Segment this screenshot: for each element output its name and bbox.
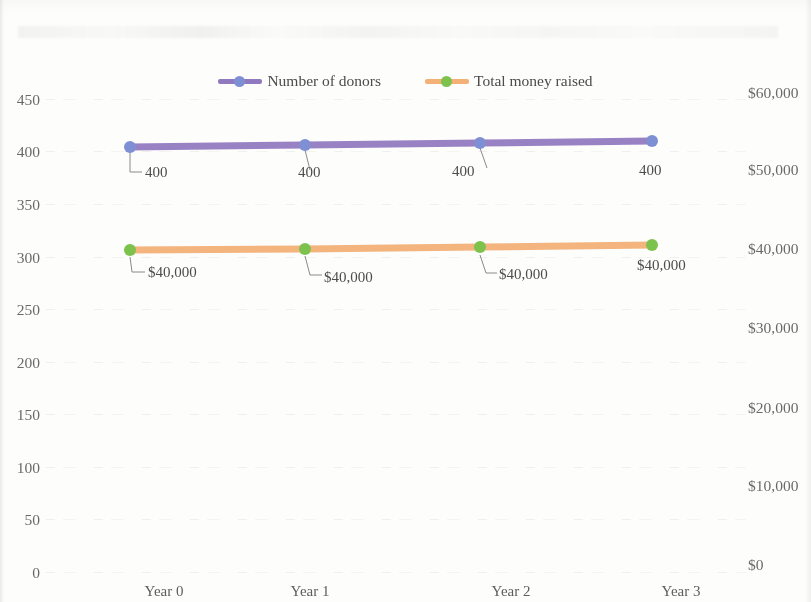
data-label-donors-year-1: 400 — [298, 165, 321, 180]
y-left-tick-400: 400 — [0, 144, 40, 160]
y-right-tick-10000: $10,000 — [748, 478, 798, 494]
y-right-tick-30000: $30,000 — [748, 320, 798, 336]
x-tick-year-3: Year 3 — [662, 584, 701, 599]
y-left-tick-300: 300 — [0, 250, 40, 266]
series-markers-total-money-raised — [124, 239, 658, 256]
x-tick-year-2: Year 2 — [492, 584, 531, 599]
y-right-tick-20000: $20,000 — [748, 400, 798, 416]
y-left-tick-0: 0 — [0, 565, 40, 581]
line-chart: 450 400 350 300 250 200 150 100 50 0 $60… — [0, 0, 811, 602]
data-label-donors-year-2: 400 — [452, 164, 475, 179]
data-label-money-year-0: $40,000 — [148, 265, 197, 280]
x-tick-year-1: Year 1 — [291, 584, 330, 599]
legend-swatch-money — [425, 75, 469, 87]
data-label-money-year-3: $40,000 — [637, 258, 686, 273]
y-left-tick-100: 100 — [0, 460, 40, 476]
legend-item-number-of-donors[interactable]: Number of donors — [218, 72, 381, 90]
y-right-tick-40000: $40,000 — [748, 241, 798, 257]
series-line-total-money-raised — [130, 245, 652, 250]
legend: Number of donors Total money raised — [0, 72, 811, 90]
y-left-tick-250: 250 — [0, 302, 40, 318]
data-label-donors-year-0: 400 — [145, 165, 168, 180]
y-left-tick-50: 50 — [0, 512, 40, 528]
legend-label-money: Total money raised — [474, 72, 593, 90]
legend-item-total-money-raised[interactable]: Total money raised — [425, 72, 593, 90]
y-left-tick-450: 450 — [0, 92, 40, 108]
y-left-tick-200: 200 — [0, 355, 40, 371]
x-tick-year-0: Year 0 — [145, 584, 184, 599]
y-left-tick-350: 350 — [0, 197, 40, 213]
y-left-tick-150: 150 — [0, 407, 40, 423]
data-label-money-year-2: $40,000 — [499, 267, 548, 282]
legend-swatch-donors — [218, 75, 262, 87]
series-line-number-of-donors — [130, 141, 652, 147]
legend-label-donors: Number of donors — [267, 72, 381, 90]
data-label-donors-year-3: 400 — [639, 163, 662, 178]
y-right-tick-0: $0 — [748, 557, 764, 573]
y-right-tick-50000: $50,000 — [748, 162, 798, 178]
data-label-money-year-1: $40,000 — [324, 270, 373, 285]
plot-area — [0, 0, 811, 602]
